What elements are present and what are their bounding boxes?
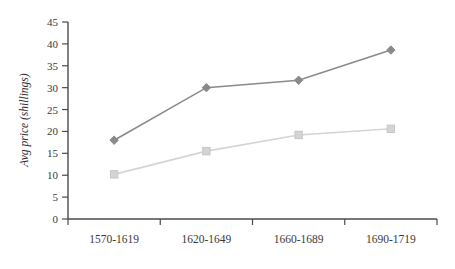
y-tick-label: 40 [47,38,59,50]
x-tick-label: 1570-1619 [89,233,139,245]
data-point-marker [110,171,117,178]
data-point-marker [110,136,118,144]
y-tick-label: 15 [47,147,59,159]
x-tick-label: 1620-1649 [181,233,231,245]
y-axis-title: Avg price (shillings) [18,73,31,167]
data-point-marker [295,131,302,138]
x-tick-label: 1660-1689 [274,233,324,245]
y-tick-label: 5 [53,191,59,203]
y-tick-group: 051015202530354045 [47,16,68,225]
y-tick-label: 45 [47,16,59,28]
series-line-series-2 [114,129,391,175]
data-point-marker [387,46,395,54]
data-point-marker [387,125,394,132]
chart-page: 051015202530354045 1570-16191620-1649166… [0,0,455,269]
series-layer [110,46,395,178]
y-tick-label: 35 [47,60,59,72]
data-point-marker [203,147,210,154]
x-tick-label: 1690-1719 [366,233,416,245]
series-line-series-1 [114,50,391,140]
x-tick-label-group: 1570-16191620-16491660-16891690-1719 [89,233,416,245]
y-tick-label: 25 [47,104,59,116]
y-tick-label: 20 [47,125,59,137]
line-chart: 051015202530354045 1570-16191620-1649166… [0,0,455,269]
y-tick-label: 30 [47,82,59,94]
data-point-marker [202,83,210,91]
data-point-marker [294,76,302,84]
x-tick-group [68,219,437,225]
y-tick-label: 10 [47,169,59,181]
y-tick-label: 0 [53,213,59,225]
